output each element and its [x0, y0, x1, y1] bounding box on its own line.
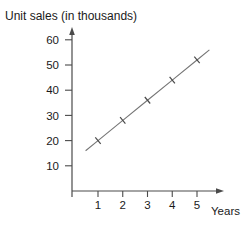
y-tick-label-40: 40: [46, 84, 59, 96]
line-chart: 10203040506012345Years: [0, 0, 247, 230]
y-tick-label-60: 60: [46, 34, 59, 46]
data-point-marker-year-2: [120, 117, 125, 124]
y-tick-label-20: 20: [46, 135, 59, 147]
chart-panel: Unit sales (in thousands) 10203040506012…: [0, 0, 247, 230]
x-tick-label-3: 3: [144, 199, 150, 211]
y-tick-label-30: 30: [46, 110, 59, 122]
x-axis-label: Years: [211, 205, 240, 217]
x-axis-arrow-icon: [216, 188, 224, 194]
data-point-marker-year-1: [95, 137, 100, 144]
x-tick-label-1: 1: [95, 199, 101, 211]
x-tick-label-2: 2: [120, 199, 126, 211]
y-tick-label-50: 50: [46, 59, 59, 71]
data-point-marker-year-4: [170, 77, 175, 84]
x-tick-label-4: 4: [169, 199, 176, 211]
x-tick-label-5: 5: [194, 199, 200, 211]
y-axis-arrow-icon: [69, 27, 75, 35]
y-tick-label-10: 10: [46, 160, 59, 172]
